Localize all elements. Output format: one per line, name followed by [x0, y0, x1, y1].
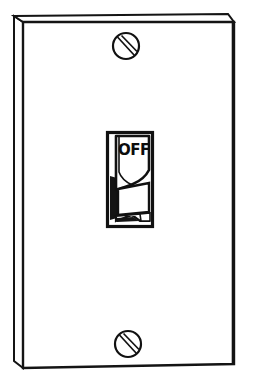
light-switch-drawing: OFF: [0, 0, 254, 389]
plate-side-face: [14, 16, 23, 368]
bottom-screw[interactable]: [115, 331, 141, 357]
switch-assembly[interactable]: OFF: [108, 133, 153, 227]
illustration-canvas: OFF Wall toggle light switch with cover …: [0, 0, 254, 389]
switch-state-label: OFF: [118, 141, 150, 159]
toggle-lever-corner-notch: [140, 213, 150, 221]
top-screw[interactable]: [113, 33, 139, 59]
toggle-lever-face[interactable]: [118, 183, 149, 215]
plate-left-edge-face: [14, 16, 23, 368]
